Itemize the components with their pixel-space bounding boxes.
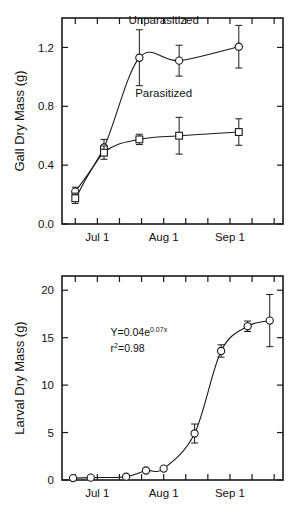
- x-tick-label: Aug 1: [149, 231, 179, 243]
- y-tick-label: 5: [48, 427, 54, 439]
- data-point-circle: [142, 467, 149, 474]
- y-tick-label: 10: [41, 379, 54, 391]
- chart-panel-larval-dry-mass: 05101520Jul 1Aug 1Sep 1Larval Dry Mass (…: [0, 264, 294, 528]
- data-point-circle: [122, 473, 129, 480]
- y-tick-label: 15: [41, 332, 54, 344]
- y-tick-label: 0: [48, 474, 54, 486]
- series-line-1: [75, 132, 239, 198]
- data-point-circle: [136, 54, 143, 61]
- equation-annotation: Y=0.04e0.07x: [111, 326, 168, 338]
- y-tick-label: 1.2: [38, 42, 54, 54]
- chart-panel-gall-dry-mass: 0.00.40.81.2Jul 1Aug 1Sep 1Gall Dry Mass…: [0, 0, 294, 264]
- x-tick-label: Jul 1: [85, 231, 109, 243]
- y-tick-label: 0.8: [38, 100, 54, 112]
- x-tick-label: Sep 1: [215, 487, 245, 499]
- gall-dry-mass-chart: 0.00.40.81.2Jul 1Aug 1Sep 1Gall Dry Mass…: [0, 0, 294, 264]
- r-squared-annotation: r2=0.98: [111, 342, 145, 354]
- data-point-circle: [87, 474, 94, 481]
- y-tick-label: 0.4: [38, 159, 55, 171]
- data-point-circle: [218, 347, 225, 354]
- data-point-circle: [266, 317, 273, 324]
- data-point-circle: [69, 475, 76, 482]
- x-tick-label: Sep 1: [215, 231, 245, 243]
- data-point-square: [101, 149, 108, 156]
- data-point-circle: [244, 323, 251, 330]
- larval-dry-mass-chart: 05101520Jul 1Aug 1Sep 1Larval Dry Mass (…: [0, 264, 294, 528]
- data-point-square: [235, 129, 242, 136]
- data-point-circle: [160, 465, 167, 472]
- data-point-circle: [176, 57, 183, 64]
- series-label-parasitized: Parasitized: [135, 87, 192, 99]
- data-point-square: [136, 136, 143, 143]
- series-line-0: [75, 47, 239, 192]
- x-tick-label: Jul 1: [85, 487, 109, 499]
- series-label-unparasitized: Unparasitized: [128, 14, 198, 26]
- data-point-square: [72, 195, 79, 202]
- series-line-0: [73, 321, 270, 479]
- plot-frame: [62, 18, 283, 224]
- y-tick-label: 20: [41, 284, 54, 296]
- data-point-circle: [191, 430, 198, 437]
- y-tick-label: 0.0: [38, 218, 54, 230]
- y-axis-title: Gall Dry Mass (g): [12, 70, 27, 171]
- plot-frame: [62, 276, 283, 480]
- data-point-square: [176, 132, 183, 139]
- y-axis-title: Larval Dry Mass (g): [12, 321, 27, 434]
- x-tick-label: Aug 1: [149, 487, 179, 499]
- data-point-circle: [235, 43, 242, 50]
- figure-container: 0.00.40.81.2Jul 1Aug 1Sep 1Gall Dry Mass…: [0, 0, 294, 528]
